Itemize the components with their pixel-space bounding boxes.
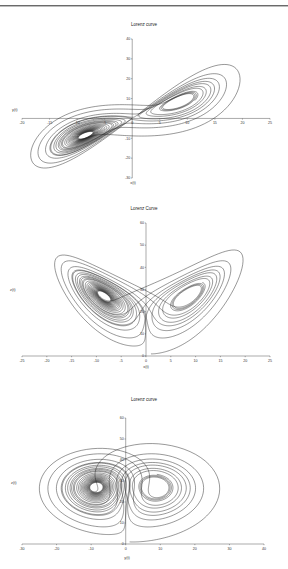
lorenz-trajectory [39, 444, 219, 542]
x-axis-label: y(t) [124, 556, 130, 560]
x-tick-label: -30 [19, 547, 24, 551]
x-tick-label: 30 [227, 547, 231, 551]
chart-title: Lorenz curve [131, 22, 158, 27]
x-tick-label: 25 [268, 121, 272, 125]
y-axis-label: z(t) [11, 481, 17, 485]
x-axis-label: x(t) [130, 181, 136, 185]
x-tick-label: -5 [120, 359, 123, 363]
y-tick-label: 20 [126, 77, 130, 81]
x-tick-label: -15 [47, 121, 52, 125]
y-tick-label: 50 [140, 243, 144, 247]
x-tick-label: -15 [69, 359, 74, 363]
y-tick-label: 60 [140, 221, 144, 225]
x-tick-label: -20 [44, 359, 49, 363]
x-tick-label: 15 [213, 121, 217, 125]
x-tick-label: 5 [159, 121, 161, 125]
lorenz-trajectory [31, 64, 240, 168]
y-tick-label: 10 [120, 521, 124, 525]
y-tick-label: 20 [120, 500, 124, 504]
x-tick-label: -20 [54, 547, 59, 551]
x-tick-label: 15 [218, 359, 222, 363]
x-tick-label: 0 [145, 359, 147, 363]
x-tick-label: -5 [103, 121, 106, 125]
lorenz-xz-chart: Lorenz Curve-25-20-15-10-505101520250102… [0, 195, 288, 380]
y-tick-label: 10 [126, 97, 130, 101]
y-tick-label: 40 [120, 458, 124, 462]
x-tick-label: -10 [94, 359, 99, 363]
y-tick-label: 30 [120, 479, 124, 483]
y-tick-label: 50 [120, 437, 124, 441]
x-tick-label: 20 [240, 121, 244, 125]
y-tick-label: 30 [140, 288, 144, 292]
y-tick-label: 0 [122, 542, 124, 546]
y-axis-label: z(t) [10, 288, 16, 292]
x-tick-label: -25 [19, 359, 24, 363]
chart-title: Lorenz Curve [130, 206, 158, 211]
x-tick-label: 40 [262, 547, 266, 551]
lorenz-yz-chart: Lorenz curve-30-20-100102030400102030405… [0, 385, 288, 569]
x-tick-label: 0 [125, 547, 127, 551]
x-tick-label: 20 [243, 359, 247, 363]
y-tick-label: 40 [126, 37, 130, 41]
x-tick-label: 20 [193, 547, 197, 551]
y-tick-label: 40 [140, 266, 144, 270]
x-tick-label: 0 [131, 121, 133, 125]
y-tick-label: -20 [125, 156, 130, 160]
y-tick-label: 60 [120, 416, 124, 420]
y-tick-label: 20 [140, 310, 144, 314]
y-tick-label: 30 [126, 57, 130, 61]
x-tick-label: -10 [89, 547, 94, 551]
y-tick-label: -30 [125, 176, 130, 180]
y-axis-label: y(t) [12, 108, 18, 112]
x-tick-label: 10 [194, 359, 198, 363]
x-tick-label: -20 [19, 121, 24, 125]
y-tick-label: 0 [142, 354, 144, 358]
lorenz-xy-chart: Lorenz curve-20-15-10-50510152025-30-20-… [0, 8, 288, 198]
y-tick-label: -10 [125, 137, 130, 141]
page-header-rule-shadow [0, 6, 288, 7]
lorenz-trajectory [55, 250, 243, 354]
x-tick-label: -10 [75, 121, 80, 125]
x-tick-label: 5 [170, 359, 172, 363]
x-tick-label: 10 [158, 547, 162, 551]
chart-title: Lorenz curve [131, 397, 158, 402]
x-tick-label: 25 [268, 359, 272, 363]
y-tick-label: 10 [140, 332, 144, 336]
x-tick-label: 10 [185, 121, 189, 125]
x-axis-label: x(t) [143, 365, 149, 369]
